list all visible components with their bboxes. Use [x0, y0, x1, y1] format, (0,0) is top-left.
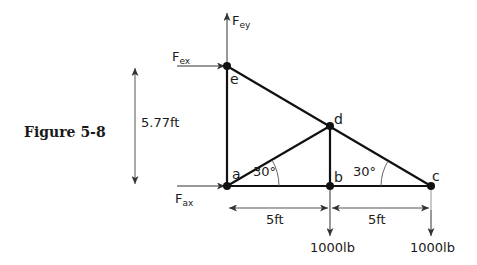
node-label-d: d [334, 111, 343, 127]
figure-caption: Figure 5-8 [24, 124, 106, 140]
angle-label-c: 30° [353, 164, 376, 179]
node-e [223, 62, 231, 70]
node-label-a: a [232, 166, 241, 182]
load-b: 1000lb [310, 190, 355, 255]
load-c-label: 1000lb [410, 240, 455, 255]
height-dimension-label: 5.77ft [141, 115, 179, 130]
force-fex: Fex [172, 49, 225, 66]
span-bc-label: 5ft [368, 212, 386, 227]
node-label-e: e [230, 71, 239, 87]
height-dimension: 5.77ft [135, 68, 179, 184]
angle-label-a: 30° [253, 164, 276, 179]
angle-arc-c [381, 161, 388, 186]
load-c: 1000lb [410, 210, 455, 255]
node-a [223, 182, 231, 190]
fax-label: Fax [175, 191, 194, 208]
node-label-b: b [334, 169, 343, 185]
load-b-label: 1000lb [310, 240, 355, 255]
fex-label: Fex [172, 49, 191, 66]
span-ab-label: 5ft [266, 212, 284, 227]
node-b [326, 182, 334, 190]
force-fax: Fax [175, 186, 225, 208]
node-d [326, 122, 334, 130]
node-label-c: c [432, 168, 440, 184]
fey-label: Fey [232, 13, 251, 30]
force-fey: Fey [227, 13, 251, 66]
truss-diagram: Figure 5-8 5.77ft Fey Fex Fax 30° 30° [0, 0, 477, 265]
